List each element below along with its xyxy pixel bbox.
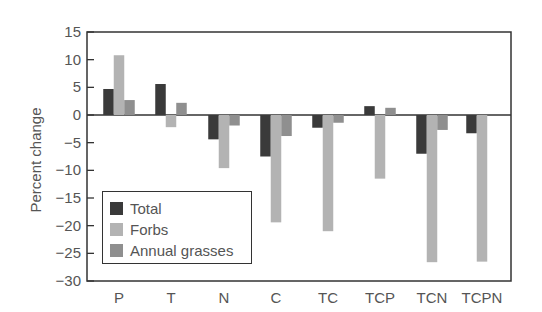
bar-forbs-t [166, 115, 177, 127]
y-tick-label: −20 [56, 217, 81, 234]
bar-annual-grasses-tcn [437, 115, 448, 130]
x-tick-label: TCPN [462, 289, 503, 306]
legend: Total Forbs Annual grasses [102, 191, 252, 264]
bar-annual-grasses-t [176, 103, 187, 115]
y-tick-label: −15 [56, 189, 81, 206]
bar-forbs-n [219, 115, 230, 168]
bar-total-tcn [416, 115, 427, 154]
bar-forbs-c [271, 115, 282, 222]
x-tick-label: TC [318, 289, 338, 306]
x-tick-label: N [219, 289, 230, 306]
y-tick-label: 10 [64, 51, 81, 68]
y-tick-label: −30 [56, 272, 81, 289]
bar-total-p [103, 89, 114, 115]
bar-total-c [260, 115, 271, 157]
y-axis-title: Percent change [27, 107, 44, 212]
x-tick-label: TCP [365, 289, 395, 306]
legend-label-annual-grasses: Annual grasses [130, 242, 233, 259]
bar-total-tcpn [466, 115, 477, 133]
bar-forbs-tcn [427, 115, 438, 262]
bar-forbs-p [114, 55, 125, 115]
bar-chart: 151050−5−10−15−20−25−30 PTNCTCTCPTCNTCPN… [0, 0, 542, 312]
y-tick-label: −10 [56, 161, 81, 178]
y-tick-label: 15 [64, 23, 81, 40]
bar-annual-grasses-c [281, 115, 292, 136]
legend-item-total: Total [110, 198, 251, 219]
x-axis: PTNCTCTCPTCNTCPN [114, 289, 502, 306]
y-tick-label: −25 [56, 244, 81, 261]
bar-annual-grasses-tcp [385, 108, 396, 115]
y-axis: 151050−5−10−15−20−25−30 [56, 23, 94, 289]
bar-total-n [208, 115, 219, 139]
legend-label-total: Total [130, 200, 162, 217]
x-tick-label: TCN [417, 289, 448, 306]
y-tick-label: 0 [73, 106, 81, 123]
bar-forbs-tc [323, 115, 334, 231]
x-tick-label: P [114, 289, 124, 306]
bar-annual-grasses-tc [333, 115, 344, 123]
y-tick-label: 5 [73, 78, 81, 95]
legend-swatch-forbs [110, 223, 123, 236]
bar-annual-grasses-p [124, 100, 135, 115]
y-tick-label: −5 [64, 134, 81, 151]
legend-swatch-annual-grasses [110, 244, 123, 257]
bar-forbs-tcpn [477, 115, 488, 262]
bar-total-tc [312, 115, 323, 128]
bar-total-tcp [364, 106, 375, 115]
x-tick-label: T [166, 289, 175, 306]
legend-item-annual-grasses: Annual grasses [110, 240, 251, 261]
bar-annual-grasses-n [229, 115, 240, 126]
bar-total-t [155, 84, 166, 115]
legend-swatch-total [110, 202, 123, 215]
bar-forbs-tcp [375, 115, 386, 179]
legend-label-forbs: Forbs [130, 221, 168, 238]
x-tick-label: C [271, 289, 282, 306]
legend-item-forbs: Forbs [110, 219, 251, 240]
